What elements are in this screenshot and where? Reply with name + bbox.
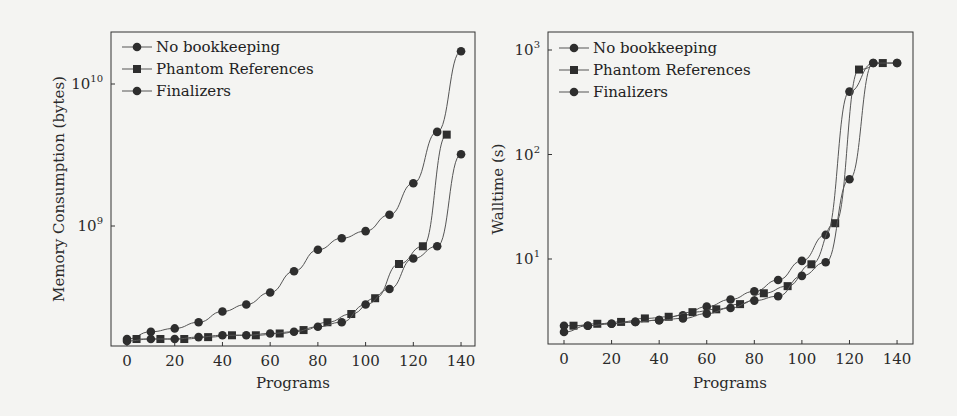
circle-marker [361, 227, 370, 236]
legend-label: Phantom References [156, 60, 314, 78]
circle-marker [631, 318, 640, 327]
circle-marker [433, 242, 442, 251]
x-tick-label: 100 [788, 350, 817, 368]
series-line-phantom-references [574, 63, 883, 326]
legend-circle-icon [570, 44, 579, 53]
circle-marker [290, 327, 299, 336]
x-axis-label: Programs [693, 374, 767, 392]
legend-square-icon [570, 66, 578, 74]
circle-marker [774, 276, 783, 285]
circle-marker [583, 321, 592, 330]
circle-marker [170, 324, 179, 333]
square-marker [593, 320, 601, 328]
legend-label: No bookkeeping [156, 38, 281, 56]
series-line-finalizers [564, 63, 897, 332]
circle-marker [893, 59, 902, 68]
y-axis-label: Walltime (s) [489, 144, 507, 235]
plot-frame [111, 32, 475, 346]
square-marker [133, 335, 141, 343]
x-tick-label: 140 [447, 352, 476, 370]
y-axis-label: Memory Consumption (bytes) [50, 76, 68, 302]
circle-marker [798, 257, 807, 266]
circle-marker [147, 335, 156, 344]
circle-marker [845, 175, 854, 184]
x-tick-label: 120 [835, 350, 864, 368]
square-marker [807, 260, 815, 268]
circle-marker [457, 47, 466, 56]
y-tick-label: 1010 [71, 73, 103, 93]
circle-marker [409, 179, 418, 188]
circle-marker [194, 318, 203, 327]
y-tick-label: 102 [515, 144, 540, 164]
legend-label: Finalizers [156, 82, 231, 100]
circle-marker [314, 245, 323, 254]
legend-label: No bookkeeping [593, 39, 718, 57]
square-marker [419, 242, 427, 250]
square-marker [617, 318, 625, 326]
circle-marker [655, 316, 664, 325]
series-line-phantom-references [137, 135, 447, 339]
x-tick-label: 80 [745, 350, 764, 368]
circle-marker [798, 272, 807, 281]
legend: No bookkeepingPhantom ReferencesFinalize… [122, 38, 314, 100]
legend-circle-icon [570, 88, 579, 97]
legend-circle-icon [133, 43, 142, 52]
circle-marker [702, 309, 711, 318]
circle-marker [726, 295, 735, 304]
square-marker [760, 289, 768, 297]
circle-marker [433, 128, 442, 137]
x-tick-label: 0 [122, 352, 132, 370]
circle-marker [679, 314, 688, 323]
y-tick-label: 103 [515, 39, 540, 59]
legend-square-icon [133, 65, 141, 73]
circle-marker [337, 318, 346, 327]
x-tick-label: 140 [883, 350, 912, 368]
circle-marker [726, 304, 735, 313]
circle-marker [457, 150, 466, 159]
circle-marker [361, 300, 370, 309]
walltime-chart: 020406080100120140 101102103 Programs Wa… [489, 32, 913, 392]
circle-marker [242, 300, 251, 309]
y-tick-label: 109 [78, 215, 103, 235]
circle-marker [218, 331, 227, 340]
x-tick-label: 0 [559, 350, 569, 368]
figure: 020406080100120140 1091010 Programs Memo… [0, 0, 957, 416]
x-axis-label: Programs [256, 374, 330, 392]
square-marker [855, 66, 863, 74]
square-marker [443, 131, 451, 139]
legend-circle-icon [133, 87, 142, 96]
circle-marker [869, 59, 878, 68]
circle-marker [314, 323, 323, 332]
y-axis-ticks: 101102103 [515, 39, 552, 268]
square-marker [395, 260, 403, 268]
square-marker [688, 308, 696, 316]
y-tick-label: 101 [515, 248, 540, 268]
legend-label: Phantom References [593, 61, 751, 79]
y-axis-ticks: 1091010 [71, 73, 115, 235]
series-line-no-bookkeeping [564, 63, 897, 326]
circle-marker [409, 254, 418, 263]
legend: No bookkeepingPhantom ReferencesFinalize… [559, 39, 751, 101]
circle-marker [290, 267, 299, 276]
circle-marker [337, 234, 346, 243]
x-tick-label: 120 [399, 352, 428, 370]
x-tick-label: 60 [261, 352, 280, 370]
x-tick-label: 20 [165, 352, 184, 370]
circle-marker [560, 328, 569, 337]
circle-marker [750, 296, 759, 305]
circle-marker [821, 258, 830, 267]
x-tick-label: 40 [650, 350, 669, 368]
x-tick-label: 80 [308, 352, 327, 370]
x-tick-label: 20 [602, 350, 621, 368]
circle-marker [266, 329, 275, 338]
circle-marker [218, 307, 227, 316]
legend-label: Finalizers [593, 83, 668, 101]
x-tick-label: 100 [351, 352, 380, 370]
x-tick-label: 40 [213, 352, 232, 370]
circle-marker [385, 285, 394, 294]
circle-marker [242, 331, 251, 340]
x-tick-label: 60 [697, 350, 716, 368]
circle-marker [266, 288, 275, 297]
circle-marker [607, 319, 616, 328]
circle-marker [194, 333, 203, 342]
